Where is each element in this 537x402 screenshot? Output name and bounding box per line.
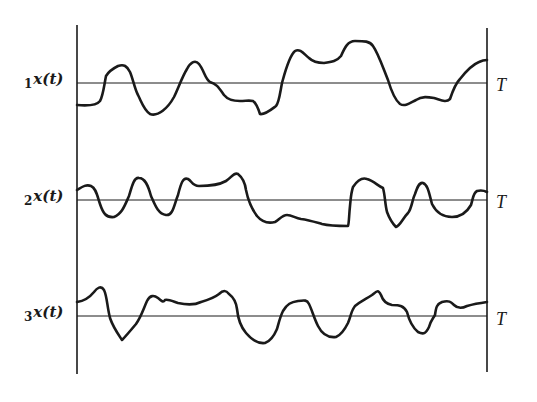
row-1-function: x(t) [33,70,63,88]
row-2-end-time-label: T [496,193,506,211]
row-3-subscript: 3 [24,310,32,324]
row-3-end-time-label: T [496,310,506,328]
sample-function-3-curve [77,287,487,343]
row-3-function: x(t) [33,303,63,321]
row-2-subscript: 2 [24,194,32,208]
random-process-ensemble-diagram: 1x(t) 2x(t) 3x(t) T T T [0,0,537,402]
sample-function-1-curve [77,41,487,115]
row-2-label: 2x(t) [24,189,63,204]
row-1-subscript: 1 [24,77,32,91]
row-1-label: 1x(t) [24,72,63,87]
row-1-end-time-label: T [496,76,506,94]
row-3-label: 3x(t) [24,305,63,320]
row-2-function: x(t) [33,187,63,205]
